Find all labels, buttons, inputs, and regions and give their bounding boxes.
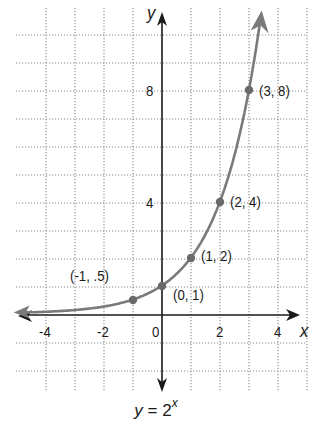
caption-exponent: x <box>172 396 178 410</box>
point-label: (0, 1) <box>173 287 204 302</box>
data-point <box>216 198 224 206</box>
point-label: (3, 8) <box>259 83 290 98</box>
data-point <box>245 86 253 94</box>
data-point <box>158 282 166 290</box>
caption-equals: = <box>143 401 162 420</box>
equation-caption: y = 2x <box>0 398 312 421</box>
point-label: (-1, .5) <box>70 268 109 283</box>
y-axis-label: y <box>147 3 155 22</box>
y-tick-label: 4 <box>146 195 153 210</box>
x-tick-label: 4 <box>274 324 281 339</box>
data-point <box>187 254 195 262</box>
x-tick-label: -4 <box>39 324 51 339</box>
exponential-curve <box>14 11 269 319</box>
data-point <box>129 296 137 304</box>
y-tick-label: 8 <box>146 83 153 98</box>
caption-y: y <box>134 401 143 420</box>
curve-path <box>26 25 260 313</box>
x-tick-label: -2 <box>97 324 109 339</box>
x-tick-label: 0 <box>152 324 159 339</box>
caption-base: 2 <box>162 401 171 420</box>
x-axis-label: x <box>300 321 308 340</box>
point-label: (1, 2) <box>201 248 232 263</box>
x-tick-label: 2 <box>216 324 223 339</box>
point-label: (2, 4) <box>230 194 261 209</box>
function-graph <box>0 0 312 448</box>
